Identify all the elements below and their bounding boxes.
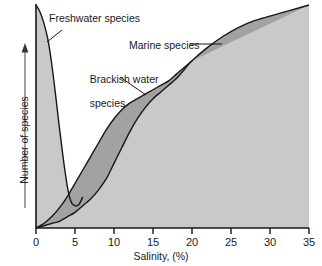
x-tick-label-20: 20: [186, 236, 198, 248]
annotation-marine: Marine species: [129, 39, 200, 51]
x-tick-label-15: 15: [147, 236, 159, 248]
x-axis-ticks: [36, 228, 309, 234]
x-tick-label-10: 10: [108, 236, 120, 248]
x-tick-label-0: 0: [33, 236, 39, 248]
freshwater-leader-line: [47, 30, 62, 42]
x-tick-label-25: 25: [225, 236, 237, 248]
annotation-brackish-line1: Brackish water: [90, 73, 159, 85]
y-axis-title: Number of species: [18, 75, 30, 205]
annotation-freshwater: Freshwater species: [49, 12, 140, 24]
chart-figure: 05101520253035 Freshwater species Marine…: [0, 0, 322, 266]
annotation-brackish-line2: species: [90, 97, 126, 109]
x-tick-label-5: 5: [72, 236, 78, 248]
annotation-brackish: Brackish water species: [78, 61, 159, 121]
x-tick-label-35: 35: [303, 236, 315, 248]
x-tick-label-30: 30: [264, 236, 276, 248]
x-axis-tick-labels: 05101520253035: [33, 236, 315, 248]
x-axis-title: Salinity, (%): [0, 250, 322, 262]
